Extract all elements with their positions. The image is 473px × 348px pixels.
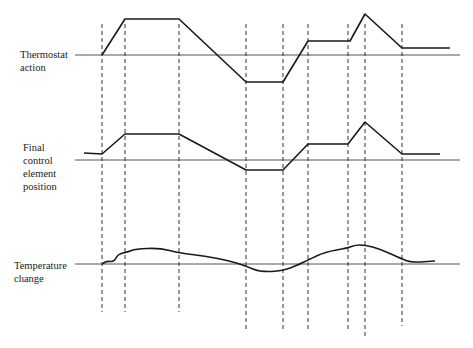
final-control-position-trace	[84, 122, 440, 170]
diagram-plot	[0, 0, 473, 348]
thermostat-action-trace	[102, 14, 450, 82]
temperature-change-trace	[102, 245, 435, 272]
control-response-diagram: Thermostat action Final control element …	[0, 0, 473, 348]
